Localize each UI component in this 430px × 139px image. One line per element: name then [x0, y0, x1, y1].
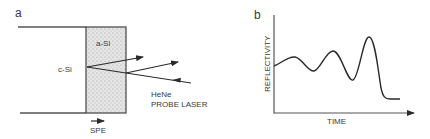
x-axis-label: TIME	[327, 117, 346, 126]
spe-label: SPE	[90, 126, 106, 135]
laser-label-line2: PROBE LASER	[151, 100, 208, 109]
panel-b: b REFLECTIVITY TIME	[254, 8, 414, 126]
figure-canvas: a a-Si c-Si HeNe PROBE LASER SPE b REFLE…	[0, 0, 430, 139]
laser-label-line1: HeNe	[151, 90, 172, 99]
y-axis-label: REFLECTIVITY	[263, 35, 272, 92]
panel-a-label: a	[15, 6, 22, 20]
panel-a: a a-Si c-Si HeNe PROBE LASER SPE	[15, 6, 208, 135]
reflectivity-curve	[274, 37, 400, 99]
c-si-label: c-Si	[58, 65, 72, 74]
reflected-beam-surface-arrow	[126, 62, 178, 73]
a-si-label: a-Si	[96, 39, 110, 48]
panel-b-label: b	[254, 8, 261, 22]
incident-beam-arrowhead-icon	[172, 78, 181, 83]
